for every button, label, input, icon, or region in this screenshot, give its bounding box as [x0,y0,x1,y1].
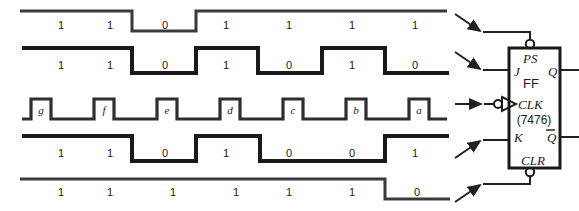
waveform-digit: 1 [58,147,64,159]
waveform-digit: 1 [58,59,64,71]
arrow-to-k [455,140,509,158]
pin-label-k: K [513,130,524,145]
timing-diagram-canvas: 1 1 0 1 1 1 1 1 1 0 1 0 1 0 g f e d c b [0,0,579,211]
waveform-path-k [22,136,449,161]
lead-line-clr [483,176,530,184]
clock-pulse-label: g [38,104,44,116]
pin-label-q: Q [548,64,558,79]
flip-flop-symbol[interactable]: J K CLK PS CLR FF (7476) Q Q [509,48,579,168]
pin-label-j: J [514,64,521,79]
waveform-path-clk [22,99,447,119]
waveform-digit: 1 [286,186,292,198]
flip-flop-name: FF [523,76,539,91]
waveform-digit: 1 [233,186,239,198]
waveform-digit: 1 [286,19,292,31]
waveform-digit: 0 [162,147,168,159]
clock-pulse-label: e [165,104,170,116]
waveform-digit: 0 [162,59,168,71]
waveform-digit: 1 [412,147,418,159]
clock-pulse-label: c [291,104,296,116]
waveform-row-clk: g f e d c b a [22,99,447,119]
waveform-row-clr: 1 1 1 1 1 1 0 [20,179,450,199]
waveform-digit: 1 [349,186,355,198]
waveform-digit: 0 [412,59,418,71]
waveform-row-k: 1 1 0 1 0 0 1 [22,136,449,161]
waveform-digit: 1 [349,19,355,31]
waveform-row-ps: 1 1 0 1 1 1 1 [20,11,447,31]
flip-flop-part-number: (7476) [517,113,552,127]
waveform-digit: 1 [107,147,113,159]
waveform-digit: 1 [58,186,64,198]
pin-label-clr: CLR [521,153,545,168]
waveform-digit: 0 [349,147,355,159]
waveform-digit: 0 [286,59,292,71]
clock-pulse-label: b [353,104,359,116]
waveform-digit: 1 [223,147,229,159]
waveform-digit: 1 [107,186,113,198]
arrow-to-j [455,52,509,70]
clock-pulse-label: a [416,104,422,116]
pin-label-clk: CLK [518,97,544,112]
waveform-digit: 0 [414,186,420,198]
arrow-to-clk [455,97,516,111]
waveform-digit: 0 [286,147,292,159]
arrow-to-clr [455,168,534,202]
waveform-digit: 1 [170,186,176,198]
waveform-digit: 1 [107,19,113,31]
clock-pulse-label: f [102,104,107,116]
waveform-digit: 1 [223,59,229,71]
arrow-to-ps [455,14,534,48]
waveform-digit: 1 [349,59,355,71]
waveform-digit: 1 [412,19,418,31]
waveform-digit: 0 [162,19,168,31]
waveform-row-j: 1 1 0 1 0 1 0 [22,48,449,73]
waveform-path-j [22,48,449,73]
waveform-digit: 1 [58,19,64,31]
pin-label-ps: PS [522,51,538,66]
waveform-digit: 1 [223,19,229,31]
timing-diagram-figure: 1 1 0 1 1 1 1 1 1 0 1 0 1 0 g f e d c b [0,0,579,211]
waveform-digit: 1 [107,59,113,71]
waveform-path-ps [20,11,447,31]
bubble-clk [494,100,502,108]
lead-line-ps [483,32,530,40]
clock-pulse-label: d [227,104,233,116]
pin-label-q-not: Q [547,130,557,145]
